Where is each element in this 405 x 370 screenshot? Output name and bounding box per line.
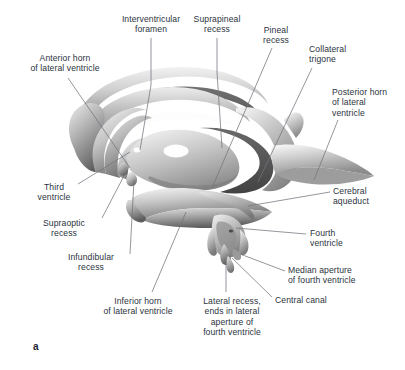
label-cerebral-aqueduct: Cerebral aqueduct bbox=[333, 186, 403, 207]
label-supraoptic-recess: Supraoptic recess bbox=[28, 218, 100, 239]
interthalamic-adhesion bbox=[164, 145, 189, 158]
leader-fourth-ventricle bbox=[236, 228, 306, 234]
leader-median-aperture bbox=[240, 254, 285, 271]
label-suprapineal-recess: Suprapineal recess bbox=[177, 14, 257, 35]
label-posterior-horn-of-lateral-ventricle: Posterior horn of lateral ventricle bbox=[332, 87, 405, 118]
label-anterior-horn-of-lateral-ventricle: Anterior horn of lateral ventricle bbox=[13, 53, 117, 74]
label-central-canal: Central canal bbox=[275, 295, 357, 305]
label-lateral-recess-fourth-ventricle: Lateral recess, ends in lateral aperture… bbox=[186, 296, 278, 338]
label-inferior-horn-of-lateral-ventricle: Inferior horn of lateral ventricle bbox=[86, 296, 190, 317]
lateral-recess-right bbox=[239, 230, 249, 255]
third-ventricle-wall bbox=[126, 130, 239, 191]
panel-label: a bbox=[33, 341, 39, 352]
leader-supraoptic-recess bbox=[102, 172, 126, 218]
label-fourth-ventricle: Fourth ventricle bbox=[310, 228, 372, 249]
fourth-ventricle-aperture-dot bbox=[229, 230, 233, 233]
interventricular-foramen-opening bbox=[134, 148, 141, 153]
label-median-aperture-of-fourth-ventricle: Median aperture of fourth ventricle bbox=[288, 265, 398, 286]
label-collateral-trigone: Collateral trigone bbox=[309, 44, 387, 65]
label-infundibular-recess: Infundibular recess bbox=[52, 252, 130, 273]
label-pineal-recess: Pineal recess bbox=[248, 25, 304, 46]
leader-cerebral-aqueduct bbox=[248, 192, 330, 206]
label-third-ventricle: Third ventricle bbox=[24, 182, 84, 203]
ventricular-system-figure: Interventricular foramenSuprapineal rece… bbox=[0, 0, 405, 370]
